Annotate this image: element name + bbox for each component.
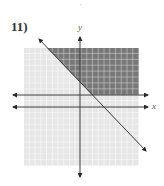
- x-axis-label: x: [152, 101, 156, 111]
- inequality-graph: [0, 0, 164, 186]
- y-axis-label: y: [78, 22, 82, 32]
